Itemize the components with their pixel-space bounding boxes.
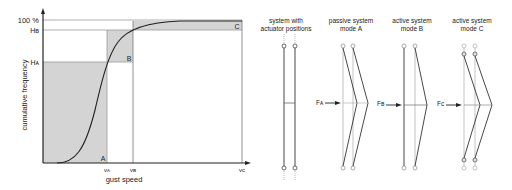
x-axis-label: gust speed — [106, 175, 143, 184]
y-tick-hb: Hʙ — [30, 27, 39, 34]
x-axis-arrow — [245, 161, 251, 165]
panel-2-title-1: passive system — [329, 17, 373, 25]
panel-2-title-2: mode A — [340, 25, 363, 32]
region-c-shade — [133, 21, 242, 30]
region-a-label: A — [101, 155, 106, 162]
gust-diagram: 100 % Hʙ Hᴀ cumulative frequency vᴀ vʙ v… — [0, 0, 512, 190]
region-a-shade — [43, 62, 107, 163]
panel-4-title-2: mode C — [461, 25, 484, 32]
y-axis-label: cumulative frequency — [20, 59, 29, 130]
panel-1-title-1: system with — [269, 17, 303, 25]
panel-active-mode-c: active system mode C Fᴄ — [437, 17, 492, 170]
x-tick-vb: vʙ — [130, 167, 136, 173]
panel-3-title-2: mode B — [401, 25, 423, 32]
panel-passive-mode-a: passive system mode A Fᴀ — [316, 17, 373, 170]
y-axis-arrow — [41, 8, 45, 14]
force-a-label: Fᴀ — [316, 99, 324, 106]
y-tick-ha: Hᴀ — [30, 59, 39, 66]
region-b-label: B — [127, 55, 132, 62]
force-c-label: Fᴄ — [437, 100, 445, 107]
x-tick-vc: vᴄ — [239, 167, 245, 173]
x-tick-va: vᴀ — [104, 167, 110, 173]
y-tick-100: 100 % — [18, 16, 40, 25]
force-b-label: Fʙ — [377, 100, 385, 107]
region-c-label: C — [234, 23, 239, 30]
panel-3-title-1: active system — [392, 17, 431, 25]
panel-active-mode-b: active system mode B Fʙ — [377, 17, 432, 170]
panel-4-title-1: active system — [452, 17, 491, 25]
panel-actuator-positions: system with actuator positions — [261, 17, 313, 180]
cumulative-frequency-chart: 100 % Hʙ Hᴀ cumulative frequency vᴀ vʙ v… — [18, 8, 251, 184]
panel-1-title-2: actuator positions — [261, 25, 313, 33]
